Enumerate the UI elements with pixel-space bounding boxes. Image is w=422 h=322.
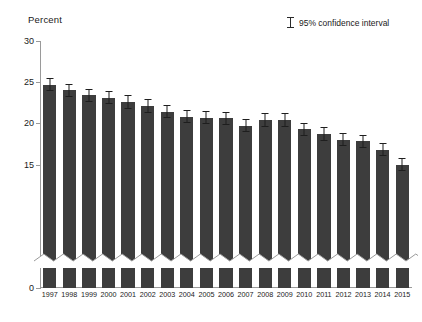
bar — [259, 120, 272, 288]
error-bar — [85, 89, 92, 102]
error-bar — [222, 112, 229, 125]
bar-group — [317, 41, 330, 288]
bar — [239, 126, 252, 288]
y-tick-label-25: 25 — [24, 77, 34, 87]
x-tick-label-2008: 2008 — [255, 290, 275, 299]
x-tick-label-2010: 2010 — [295, 290, 315, 299]
bar-group — [337, 41, 350, 288]
error-bar — [301, 123, 308, 136]
bar — [376, 150, 389, 288]
bar-group — [141, 41, 154, 288]
error-bar — [262, 113, 269, 128]
error-bar — [379, 143, 386, 156]
bar — [278, 120, 291, 288]
error-bar — [203, 111, 210, 124]
bar-group — [239, 41, 252, 288]
bar — [356, 141, 369, 288]
x-tick-label-2003: 2003 — [157, 290, 177, 299]
bar-group — [356, 41, 369, 288]
y-axis-title: Percent — [28, 14, 62, 25]
bar-group — [180, 41, 193, 288]
bar-group — [219, 41, 232, 288]
x-tick-label-2013: 2013 — [353, 290, 373, 299]
x-tick-label-2012: 2012 — [334, 290, 354, 299]
bar-group — [200, 41, 213, 288]
x-tick-label-2011: 2011 — [314, 290, 334, 299]
bar-group — [259, 41, 272, 288]
x-axis-tick-labels: 1997199819992000200120022003200420052006… — [40, 290, 412, 304]
error-bar — [340, 133, 347, 146]
error-bar — [399, 158, 406, 171]
bar-group — [298, 41, 311, 288]
x-tick-label-2001: 2001 — [118, 290, 138, 299]
bar-group — [63, 41, 76, 288]
error-bar — [46, 78, 53, 91]
bar-group — [161, 41, 174, 288]
plot-area: 015202530 — [40, 41, 412, 288]
error-bar — [125, 95, 132, 108]
bar — [43, 85, 56, 288]
error-bar — [144, 99, 151, 112]
x-tick-label-2006: 2006 — [216, 290, 236, 299]
y-tick-label-0: 0 — [29, 283, 34, 293]
x-tick-label-2007: 2007 — [236, 290, 256, 299]
bar-group — [43, 41, 56, 288]
x-tick-label-2014: 2014 — [373, 290, 393, 299]
error-bar — [320, 127, 327, 140]
bar — [63, 90, 76, 288]
bar — [200, 118, 213, 288]
y-tick-label-15: 15 — [24, 160, 34, 170]
x-tick-label-2000: 2000 — [99, 290, 119, 299]
error-bar — [105, 91, 112, 104]
y-tick-0 — [36, 288, 41, 289]
bar-group — [82, 41, 95, 288]
bar — [180, 117, 193, 288]
y-tick-label-20: 20 — [24, 118, 34, 128]
legend: 95% confidence interval — [287, 16, 389, 29]
bar-series — [40, 41, 412, 288]
x-tick-label-2004: 2004 — [177, 290, 197, 299]
x-tick-label-2002: 2002 — [138, 290, 158, 299]
bar-group — [278, 41, 291, 288]
y-tick-label-30: 30 — [24, 36, 34, 46]
x-tick-label-1998: 1998 — [60, 290, 80, 299]
error-bar — [66, 84, 73, 97]
x-tick-label-1999: 1999 — [79, 290, 99, 299]
error-bar — [183, 110, 190, 123]
x-tick-label-1997: 1997 — [40, 290, 60, 299]
error-bar — [242, 119, 249, 132]
bar-group — [396, 41, 409, 288]
bar — [141, 106, 154, 288]
x-tick-label-2009: 2009 — [275, 290, 295, 299]
x-tick-label-2015: 2015 — [392, 290, 412, 299]
error-bar-icon — [287, 16, 294, 29]
bar-group — [102, 41, 115, 288]
bar — [317, 134, 330, 288]
bar — [219, 118, 232, 288]
bar — [82, 95, 95, 288]
bar — [161, 112, 174, 288]
bar — [102, 98, 115, 288]
bar — [298, 129, 311, 288]
x-tick-label-2005: 2005 — [197, 290, 217, 299]
error-bar — [164, 105, 171, 118]
legend-label: 95% confidence interval — [299, 18, 389, 28]
bar — [337, 140, 350, 288]
bar-chart: Percent 95% confidence interval 01520253… — [0, 0, 422, 322]
bar — [121, 102, 134, 288]
error-bar — [360, 135, 367, 148]
bar-group — [376, 41, 389, 288]
error-bar — [281, 113, 288, 128]
bar-group — [121, 41, 134, 288]
bar — [396, 165, 409, 289]
